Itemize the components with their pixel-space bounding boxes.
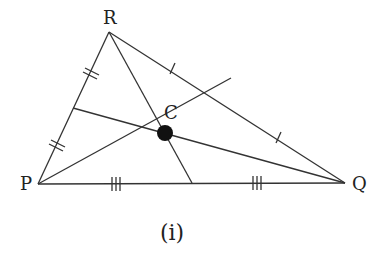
- triangle-figure: R P Q C (i): [0, 0, 387, 254]
- vertex-label-P: P: [20, 173, 32, 194]
- tick-marks-PR: [49, 68, 99, 151]
- median-from-Q: [73, 108, 345, 183]
- vertex-label-R: R: [103, 7, 117, 28]
- median-from-P: [38, 78, 231, 184]
- centroid-diagram: R P Q C (i): [0, 0, 387, 254]
- centroid-label-C: C: [164, 102, 178, 123]
- centroid-point: [157, 125, 173, 141]
- figure-caption: (i): [160, 220, 184, 245]
- vertex-label-Q: Q: [352, 173, 367, 194]
- side-RQ: [109, 32, 345, 183]
- median-from-R: [109, 32, 192, 183]
